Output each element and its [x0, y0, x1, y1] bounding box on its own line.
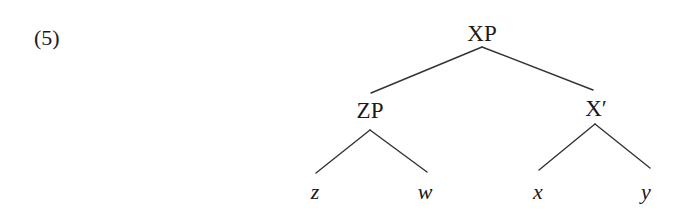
leaf-w: w: [418, 181, 433, 203]
branch-xbar-x: [539, 124, 595, 170]
node-xbar: X′: [585, 97, 607, 120]
branch-xbar-y: [595, 124, 650, 168]
branch-zp-z: [316, 130, 370, 173]
leaf-z: z: [311, 181, 320, 203]
branch-xp-zp: [371, 47, 482, 93]
branch-xp-xbar: [482, 47, 593, 90]
branch-zp-w: [370, 130, 427, 172]
example-number: (5): [34, 27, 60, 49]
syntax-tree-figure: (5) XP ZP X′ z w x y: [0, 0, 696, 217]
leaf-x: x: [533, 181, 543, 203]
node-xp: XP: [467, 22, 496, 45]
node-zp: ZP: [357, 99, 384, 122]
leaf-y: y: [641, 181, 651, 203]
